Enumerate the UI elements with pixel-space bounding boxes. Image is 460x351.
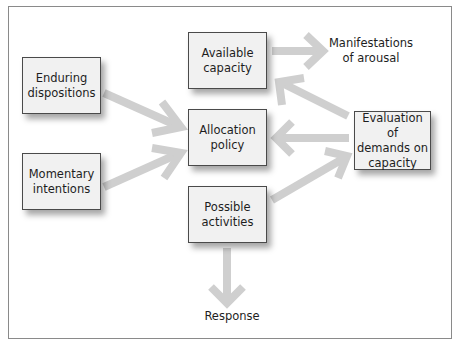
box-label-line: Possible — [202, 200, 254, 215]
arrow-momentary-to-allocation — [104, 148, 181, 187]
box-possible-activities: Possible activities — [188, 186, 267, 243]
box-label-line: dispositions — [27, 86, 95, 101]
label-line: Manifestations — [326, 36, 416, 51]
box-label-line: Available — [201, 46, 253, 61]
label-line: of arousal — [326, 51, 416, 66]
box-label-line: Enduring — [27, 71, 95, 86]
label-line: Response — [204, 309, 259, 323]
box-momentary-intentions: Momentary intentions — [22, 153, 101, 210]
box-label-line: capacity — [201, 61, 253, 76]
box-label-line: Evaluation of — [355, 111, 430, 141]
arrow-enduring-to-allocation — [104, 93, 181, 133]
label-response: Response — [197, 309, 267, 324]
box-available-capacity: Available capacity — [188, 32, 267, 89]
box-allocation-policy: Allocation policy — [188, 109, 267, 166]
arrow-possible-to-response — [211, 248, 243, 303]
label-manifestations-of-arousal: Manifestations of arousal — [326, 36, 416, 66]
box-label-line: demands on — [355, 141, 430, 156]
box-label-line: Momentary — [29, 167, 95, 182]
box-label-line: intentions — [29, 182, 95, 197]
box-label-line: capacity — [355, 156, 430, 171]
arrow-possible-to-evaluation — [272, 151, 347, 200]
arrow-evaluation-to-available — [279, 78, 348, 116]
arrow-available-to-manifestations — [272, 35, 323, 67]
arrow-evaluation-to-allocation — [276, 122, 349, 154]
box-label-line: activities — [202, 215, 254, 230]
box-label-line: Allocation — [199, 123, 256, 138]
box-enduring-dispositions: Enduring dispositions — [22, 57, 101, 114]
box-evaluation-of-demands: Evaluation of demands on capacity — [354, 111, 431, 170]
box-label-line: policy — [199, 138, 256, 153]
